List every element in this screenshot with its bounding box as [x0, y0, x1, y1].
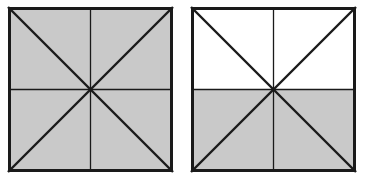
left-square — [8, 7, 173, 172]
left-square-center-vertex — [89, 88, 92, 91]
right-square-center-vertex — [272, 88, 275, 91]
right-square — [191, 7, 356, 172]
squares-figure — [0, 0, 365, 188]
figure-container — [0, 0, 365, 188]
